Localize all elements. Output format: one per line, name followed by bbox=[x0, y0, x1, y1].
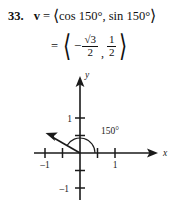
close-angle-bracket-2: ⟩ bbox=[119, 31, 127, 61]
coordinate-plane-graph: –1 1 –1 1 x y 150° bbox=[0, 68, 177, 206]
equals-sign-2: = bbox=[48, 39, 61, 54]
comma-1: , bbox=[102, 9, 105, 23]
sqrt3-numerator: √3 bbox=[82, 34, 98, 46]
fraction-1-over-2: 1 2 bbox=[107, 34, 117, 58]
problem-number: 33. bbox=[0, 6, 24, 26]
close-angle-bracket-1: ⟩ bbox=[150, 7, 156, 24]
x-axis-label-pos-one: 1 bbox=[113, 160, 118, 170]
minus-sign: − bbox=[73, 38, 81, 54]
graph-svg: –1 1 –1 1 x y 150° bbox=[0, 68, 177, 206]
exercise-figure: 33.v=⟨cos 150°, sin 150°⟩ = ⟨ − √3 2 , 1… bbox=[0, 0, 177, 206]
vector-symbol: v bbox=[24, 6, 40, 26]
x-axis-name: x bbox=[162, 148, 168, 158]
y-axis-label-neg-one: –1 bbox=[59, 184, 70, 194]
equation-line-1: 33.v=⟨cos 150°, sin 150°⟩ bbox=[0, 6, 177, 26]
two-denominator-y: 2 bbox=[107, 46, 117, 59]
two-denominator-x: 2 bbox=[82, 46, 98, 59]
equals-sign-1: = bbox=[40, 9, 53, 23]
open-angle-bracket-2: ⟨ bbox=[63, 31, 71, 61]
angle-annotation-label: 150° bbox=[101, 126, 119, 136]
angle-arc bbox=[67, 138, 95, 153]
cos-component: cos 150° bbox=[59, 9, 103, 23]
sin-component: sin 150° bbox=[109, 9, 150, 23]
vector-arrow-shaft bbox=[54, 138, 81, 153]
x-axis-label-neg-one: –1 bbox=[39, 160, 50, 170]
y-axis-name: y bbox=[84, 70, 90, 80]
one-numerator: 1 bbox=[107, 34, 117, 46]
y-axis-label-pos-one: 1 bbox=[67, 114, 72, 124]
open-angle-bracket-1: ⟨ bbox=[53, 7, 59, 24]
comma-2: , bbox=[99, 46, 106, 61]
equation-line-2: = ⟨ − √3 2 , 1 2 ⟩ bbox=[0, 28, 177, 64]
fraction-sqrt3-over-2: √3 2 bbox=[82, 34, 98, 58]
